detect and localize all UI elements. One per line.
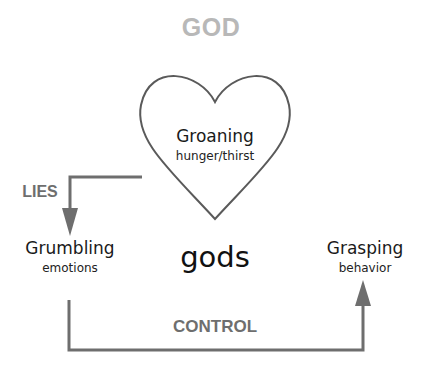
lies-arrow — [62, 177, 142, 236]
heart-shape — [140, 76, 290, 219]
diagram-canvas — [0, 0, 422, 371]
center-gods-label: gods — [165, 240, 265, 274]
node-groaning-sublabel: hunger/thirst — [165, 149, 265, 163]
node-grasping-label: Grasping — [310, 238, 420, 258]
edge-control-label: CONTROL — [150, 317, 280, 337]
node-grumbling-sublabel: emotions — [15, 261, 125, 275]
node-grumbling-label: Grumbling — [15, 238, 125, 258]
edge-lies-label: LIES — [20, 183, 60, 201]
title-god: GOD — [0, 13, 422, 42]
control-arrow — [69, 280, 371, 350]
node-grasping-sublabel: behavior — [310, 261, 420, 275]
node-groaning-label: Groaning — [165, 126, 265, 146]
